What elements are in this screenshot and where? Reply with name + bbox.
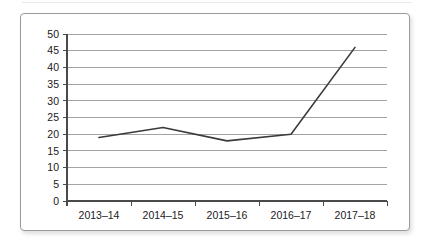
- x-axis-tick-label: 2015–16: [207, 209, 248, 221]
- data-series-line: [99, 47, 355, 141]
- x-axis-tick-label: 2014–15: [143, 209, 184, 221]
- figure-root: 051015202530354045502013–142014–152015–1…: [0, 0, 433, 252]
- y-axis-tick-label: 15: [47, 145, 59, 157]
- y-axis-tick-label: 50: [47, 28, 59, 40]
- y-axis-tick-label: 20: [47, 128, 59, 140]
- y-axis-tick-label: 35: [47, 78, 59, 90]
- y-axis-tick-label: 5: [53, 178, 59, 190]
- chart-figure-box: 051015202530354045502013–142014–152015–1…: [20, 13, 410, 231]
- x-axis-tick-label: 2017–18: [335, 209, 376, 221]
- y-axis-tick-label: 0: [53, 195, 59, 207]
- y-axis-tick-label: 10: [47, 161, 59, 173]
- y-axis-tick-label: 30: [47, 95, 59, 107]
- y-axis-tick-label: 40: [47, 61, 59, 73]
- plot-area: 051015202530354045502013–142014–152015–1…: [21, 14, 411, 232]
- line-chart: 051015202530354045502013–142014–152015–1…: [21, 14, 411, 232]
- page-top-rule: [22, 2, 412, 3]
- x-axis-tick-label: 2016–17: [271, 209, 312, 221]
- y-axis-tick-label: 45: [47, 44, 59, 56]
- x-axis-tick-label: 2013–14: [79, 209, 120, 221]
- y-axis-tick-label: 25: [47, 111, 59, 123]
